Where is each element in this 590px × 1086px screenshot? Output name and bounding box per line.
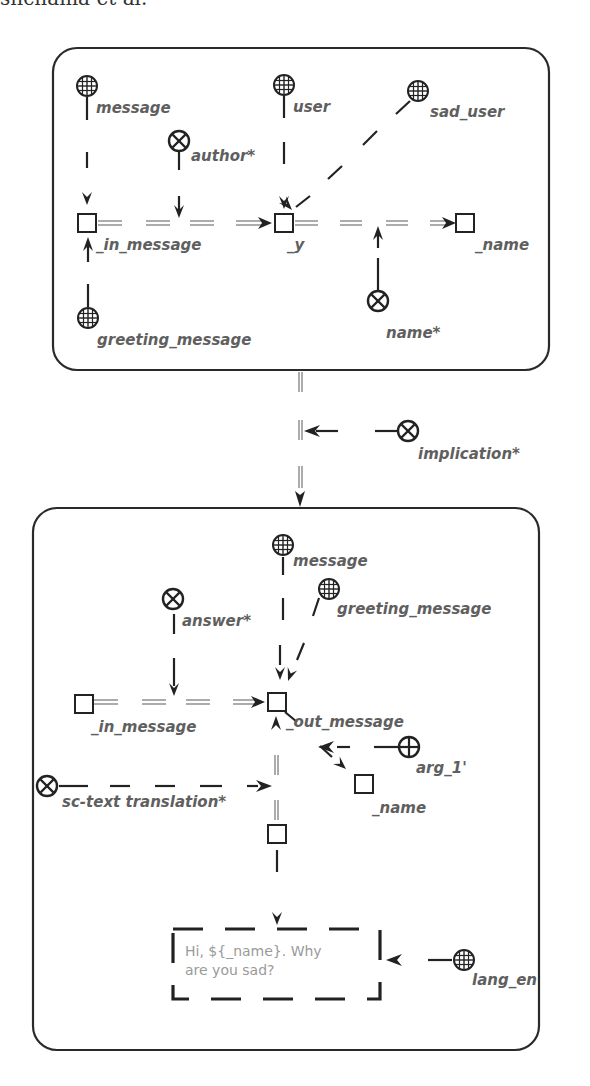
node-label-name-var: _name (474, 236, 529, 254)
node-label-answer: answer* (182, 612, 251, 630)
node-label-message: message (96, 99, 171, 117)
node-label-lang-en: lang_en (472, 971, 537, 989)
square-icon (355, 775, 373, 793)
translation-pair-arc (275, 755, 278, 820)
common-arc-y-to-name (295, 217, 456, 229)
globe-grid-icon (78, 308, 98, 328)
globe-grid-icon (273, 535, 293, 555)
globe-grid-icon (319, 579, 339, 599)
node-label-in-message: _in_message (90, 718, 197, 736)
relation-label-translation: sc-text translation* (62, 793, 226, 811)
semantic-network-diagram: message author* user sad_user _in_messag… (0, 0, 590, 1086)
circled-x-icon (169, 131, 189, 151)
square-icon (268, 825, 286, 843)
link-content-line-1: Hi, ${_name}. Why (185, 943, 322, 959)
node-label-out-message: _out_message (285, 713, 404, 731)
circled-plus-icon (399, 737, 419, 757)
node-label-author: author* (191, 147, 255, 165)
square-icon (456, 214, 474, 232)
node-label-name-var: _name (371, 799, 426, 817)
node-label-y: _y (286, 236, 306, 254)
square-icon (268, 693, 286, 711)
globe-grid-icon (77, 76, 97, 96)
circled-x-icon (368, 291, 388, 311)
circled-x-icon (163, 589, 183, 609)
square-icon (78, 214, 96, 232)
node-label-name-rel: name* (386, 324, 441, 342)
globe-grid-icon (454, 950, 474, 970)
relation-label-implication: implication* (418, 445, 520, 463)
node-label-sad-user: sad_user (430, 103, 506, 121)
circled-x-icon (398, 421, 418, 441)
globe-grid-icon (274, 75, 294, 95)
implication-arc (295, 372, 305, 507)
link-content-line-2: are you sad? (185, 962, 274, 978)
square-icon (75, 695, 93, 713)
common-arc-in-to-out (94, 696, 265, 708)
node-label-greeting-message: greeting_message (97, 331, 251, 349)
circled-x-icon (37, 776, 57, 796)
node-label-greeting-message: greeting_message (337, 600, 491, 618)
common-arc-in-to-y (98, 217, 272, 229)
node-label-in-message: _in_message (95, 236, 202, 254)
globe-grid-icon (408, 81, 428, 101)
node-label-arg-1: arg_1' (416, 759, 467, 777)
node-label-user: user (293, 98, 332, 116)
node-label-message: message (293, 552, 368, 570)
square-icon (275, 214, 293, 232)
top-contour-frame (53, 48, 549, 370)
